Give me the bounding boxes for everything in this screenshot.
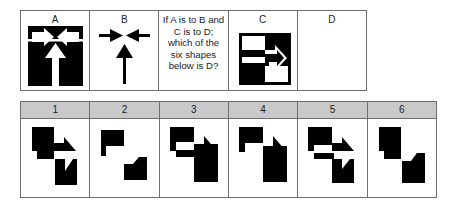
option-3-figure-icon <box>170 124 220 184</box>
cell-c-label: C <box>229 14 297 25</box>
option-2-figure-icon <box>101 127 149 187</box>
question-text: If A is to B and C is to D; which of the… <box>161 14 225 72</box>
option-1-figure-icon <box>32 127 80 187</box>
cell-a-label: A <box>21 14 89 25</box>
figure-a-icon <box>28 26 83 86</box>
option-4-figure-icon <box>239 124 289 184</box>
cell-d: D <box>298 11 366 90</box>
option-4-number: 4 <box>229 102 297 119</box>
cell-question: If A is to B and C is to D; which of the… <box>159 11 228 90</box>
cell-c: C <box>229 11 298 90</box>
figure-c-icon <box>239 33 291 85</box>
option-6-figure-icon <box>379 127 427 187</box>
option-3[interactable]: 3 <box>160 102 229 197</box>
cell-a: A <box>21 11 90 90</box>
option-5-number: 5 <box>298 102 366 119</box>
option-5-figure-icon <box>308 127 358 187</box>
cell-b: B <box>90 11 159 90</box>
problem-row: A B If A is to B and C is to D; w <box>20 10 367 91</box>
option-5[interactable]: 5 <box>298 102 367 197</box>
figure-b-icon <box>97 26 152 86</box>
answer-options-row: 1 2 3 <box>20 101 437 198</box>
cell-b-label: B <box>90 14 158 25</box>
option-1[interactable]: 1 <box>21 102 90 197</box>
cell-d-label: D <box>298 14 366 25</box>
option-2[interactable]: 2 <box>90 102 159 197</box>
option-2-number: 2 <box>90 102 158 119</box>
option-6[interactable]: 6 <box>368 102 436 197</box>
option-3-number: 3 <box>160 102 228 119</box>
option-4[interactable]: 4 <box>229 102 298 197</box>
option-6-number: 6 <box>368 102 436 119</box>
option-1-number: 1 <box>21 102 89 119</box>
